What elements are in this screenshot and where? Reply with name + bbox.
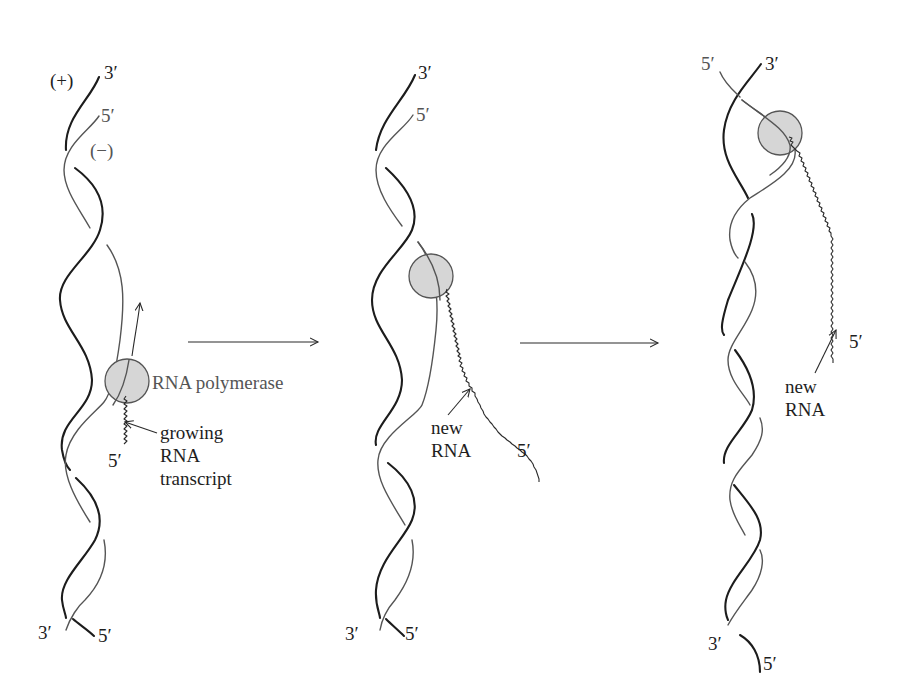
label-top-3prime: 3′ xyxy=(765,53,779,74)
panel-stage-1: (+) 3′ 5′ (−) RNA polymerase growing RNA… xyxy=(38,62,283,646)
label-top-5prime: 5′ xyxy=(701,53,715,74)
dna-plus-strand xyxy=(722,64,761,620)
label-new: new xyxy=(785,376,817,397)
transcription-diagram: (+) 3′ 5′ (−) RNA polymerase growing RNA… xyxy=(0,0,911,693)
transcript-pointer-arrow xyxy=(125,422,157,433)
new-rna-pointer-arrow xyxy=(448,389,470,415)
dna-plus-tail xyxy=(740,635,760,672)
label-growing: growing xyxy=(160,422,224,443)
rna-polymerase xyxy=(105,359,149,403)
label-bottom-3prime: 3′ xyxy=(345,623,359,644)
panel-stage-2: 3′ 5′ new RNA 5′ 3′ 5′ xyxy=(345,62,539,644)
label-rna: RNA xyxy=(431,440,471,461)
label-new: new xyxy=(431,417,463,438)
rna-polymerase xyxy=(758,111,802,155)
new-rna xyxy=(789,137,833,363)
label-top-5prime: 5′ xyxy=(101,105,115,126)
label-bottom-5prime: 5′ xyxy=(405,623,419,644)
label-plus-strand: (+) xyxy=(50,70,73,92)
label-top-5prime: 5′ xyxy=(416,104,430,125)
label-minus-strand: (−) xyxy=(90,140,113,162)
dna-plus-tail xyxy=(386,619,404,636)
label-rna-5prime: 5′ xyxy=(849,331,863,352)
label-rna-5prime: 5′ xyxy=(517,440,531,461)
label-bottom-5prime: 5′ xyxy=(763,653,777,674)
label-rna-5prime: 5′ xyxy=(108,450,122,471)
label-bottom-5prime: 5′ xyxy=(98,625,112,646)
label-top-3prime: 3′ xyxy=(104,62,118,83)
label-bottom-3prime: 3′ xyxy=(38,622,52,643)
label-transcript: transcript xyxy=(160,468,232,489)
direction-arrow xyxy=(132,303,140,356)
dna-plus-tail xyxy=(73,619,94,636)
label-rna: RNA xyxy=(160,445,200,466)
panel-stage-3: 5′ 3′ 5′ new RNA 3′ 5′ xyxy=(701,53,863,674)
label-top-3prime: 3′ xyxy=(418,62,432,83)
label-bottom-3prime: 3′ xyxy=(708,633,722,654)
new-rna-pointer-arrow xyxy=(815,330,836,373)
label-rna: RNA xyxy=(785,399,825,420)
label-rna-polymerase: RNA polymerase xyxy=(152,372,283,393)
